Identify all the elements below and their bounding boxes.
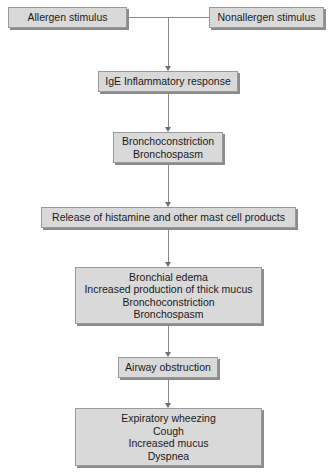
node-release-histamine: Release of histamine and other mast cell… <box>41 207 296 228</box>
node-label-line: Bronchoconstriction <box>122 296 214 309</box>
node-label-line: Increased production of thick mucus <box>84 283 252 296</box>
connector-release-to-edema <box>168 227 169 263</box>
connector-airway-to-symptoms <box>168 377 169 404</box>
node-label: Allergen stimulus <box>28 11 108 24</box>
node-ige-inflammatory-response: IgE Inflammatory response <box>98 71 238 92</box>
node-label-line: Dyspnea <box>148 450 189 463</box>
node-airway-obstruction: Airway obstruction <box>118 357 218 378</box>
connector-edema-to-airway <box>168 324 169 353</box>
node-allergen-stimulus: Allergen stimulus <box>8 7 127 28</box>
node-label-line: Bronchospasm <box>133 148 203 161</box>
connector-broncho-to-release <box>168 163 169 203</box>
node-label-line: Expiratory wheezing <box>121 412 216 425</box>
connector-to-ige <box>168 17 169 67</box>
node-bronchial-edema: Bronchial edema Increased production of … <box>75 267 262 324</box>
node-label: IgE Inflammatory response <box>105 75 230 88</box>
node-symptoms: Expiratory wheezing Cough Increased mucu… <box>75 408 262 466</box>
node-label-line: Bronchospasm <box>133 308 203 321</box>
node-label-line: Increased mucus <box>129 437 209 450</box>
node-label-line: Bronchial edema <box>129 271 208 284</box>
node-label-line: Cough <box>153 425 184 438</box>
node-nonallergen-stimulus: Nonallergen stimulus <box>209 7 324 28</box>
connector-ige-to-broncho <box>168 91 169 128</box>
node-label: Release of histamine and other mast cell… <box>52 211 285 224</box>
node-label: Nonallergen stimulus <box>217 11 315 24</box>
node-label: Airway obstruction <box>125 361 211 374</box>
node-bronchoconstriction-bronchospasm: Bronchoconstriction Bronchospasm <box>113 132 223 163</box>
node-label-line: Bronchoconstriction <box>122 135 214 148</box>
